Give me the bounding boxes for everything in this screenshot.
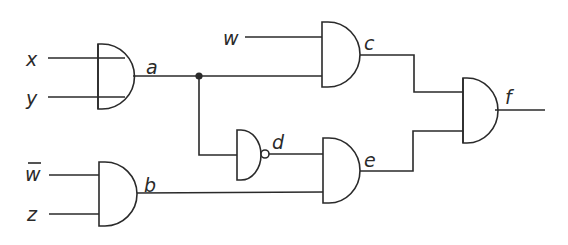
wire-e: [360, 131, 470, 171]
input-label-w-bar: w: [25, 163, 41, 185]
input-label-z: z: [26, 203, 38, 225]
logic-circuit-diagram: x y w w z a c d b e f: [0, 0, 568, 245]
wire-b: [137, 192, 323, 193]
wire-a-to-d: [199, 76, 237, 155]
gate-label-d: d: [272, 131, 285, 153]
gate-c: [322, 22, 360, 87]
gate-label-f: f: [505, 86, 515, 108]
gate-d: [237, 130, 269, 180]
input-label-x: x: [25, 48, 38, 70]
input-label-y: y: [25, 87, 38, 109]
wire-c: [360, 55, 470, 92]
gate-label-e: e: [364, 149, 376, 171]
gate-e: [323, 138, 360, 203]
gate-b: [99, 162, 137, 226]
gate-f: [463, 78, 498, 143]
input-label-w: w: [223, 27, 239, 49]
inversion-bubble: [261, 150, 269, 158]
gate-label-a: a: [146, 56, 158, 78]
gate-label-c: c: [364, 32, 375, 54]
gate-a: [48, 44, 134, 109]
